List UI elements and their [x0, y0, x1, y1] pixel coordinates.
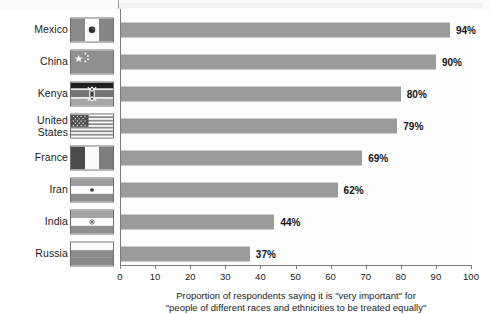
bar-value-label: 44% — [280, 217, 300, 228]
x-axis-tick-label: 60 — [325, 271, 336, 282]
y-axis-line — [120, 9, 121, 266]
bar-row: Mexico 94% — [0, 14, 491, 46]
x-axis-tick — [331, 265, 332, 269]
bar-row: Iran 62% — [0, 174, 491, 206]
x-axis-tick-label: 10 — [150, 271, 161, 282]
country-label: UnitedStates — [0, 115, 68, 138]
bar — [120, 247, 250, 262]
bar-value-label: 94% — [456, 25, 476, 36]
flag-united-states-icon — [70, 114, 114, 139]
bar — [120, 55, 436, 70]
country-label: Kenya — [0, 88, 68, 100]
country-label-line-1: United — [0, 115, 68, 127]
x-axis-tick — [436, 265, 437, 269]
flag-russia-icon — [70, 242, 114, 267]
x-axis-tick-label: 90 — [431, 271, 442, 282]
bar — [120, 23, 450, 38]
country-label-line-1: Iran — [0, 184, 68, 196]
bar-row: France 69% — [0, 142, 491, 174]
bar-row: UnitedStates 79% — [0, 110, 491, 142]
flag-france-icon — [70, 146, 114, 171]
country-label: Mexico — [0, 24, 68, 36]
bar — [120, 215, 274, 230]
country-label-line-1: Mexico — [0, 24, 68, 36]
bar — [120, 183, 338, 198]
x-axis-tick — [155, 265, 156, 269]
bar-value-label: 90% — [442, 57, 462, 68]
bar-row: China 90% — [0, 46, 491, 78]
chart-caption: Proportion of respondents saying it is "… — [120, 290, 472, 314]
bar-value-label: 80% — [407, 89, 427, 100]
country-label: France — [0, 152, 68, 164]
x-axis-tick-label: 50 — [290, 271, 301, 282]
caption-line-1: Proportion of respondents saying it is "… — [120, 290, 472, 302]
bar-row: India 44% — [0, 206, 491, 238]
x-axis-tick-label: 40 — [255, 271, 266, 282]
country-label-line-1: Kenya — [0, 88, 68, 100]
x-axis-tick-label: 80 — [396, 271, 407, 282]
flag-kenya-icon — [70, 82, 114, 107]
x-axis-tick — [120, 265, 121, 269]
cropped-page-fragment — [0, 0, 491, 9]
x-axis-tick — [225, 265, 226, 269]
x-axis-tick — [190, 265, 191, 269]
country-label-line-1: India — [0, 216, 68, 228]
x-axis-tick — [296, 265, 297, 269]
x-axis-tick-label: 20 — [185, 271, 196, 282]
country-label-line-1: Russia — [0, 248, 68, 260]
bar — [120, 119, 397, 134]
flag-mexico-icon — [70, 18, 114, 43]
country-label: India — [0, 216, 68, 228]
x-axis-tick — [260, 265, 261, 269]
bar-rows: Mexico 94%China 90%Kenya 80%UnitedStates — [0, 9, 491, 267]
x-axis-tick-label: 70 — [360, 271, 371, 282]
cropped-text-smear — [118, 3, 483, 8]
bar-value-label: 62% — [344, 185, 364, 196]
country-label-line-1: China — [0, 56, 68, 68]
cropped-rule-mark — [118, 0, 119, 9]
x-axis-tick-label: 0 — [117, 271, 122, 282]
country-label: Russia — [0, 248, 68, 260]
country-label-line-1: France — [0, 152, 68, 164]
flag-india-icon — [70, 210, 114, 235]
x-axis-tick-label: 100 — [463, 271, 479, 282]
country-label: China — [0, 56, 68, 68]
bar-chart: Mexico 94%China 90%Kenya 80%UnitedStates — [0, 9, 491, 310]
bar-value-label: 37% — [256, 249, 276, 260]
bar-value-label: 79% — [403, 121, 423, 132]
x-axis-tick — [401, 265, 402, 269]
bar — [120, 87, 401, 102]
bar — [120, 151, 362, 166]
x-axis-tick — [471, 265, 472, 269]
bar-value-label: 69% — [368, 153, 388, 164]
x-axis: 0102030405060708090100 — [0, 265, 491, 287]
country-label-line-2: States — [0, 126, 68, 138]
caption-line-2: "people of different races and ethniciti… — [120, 302, 472, 314]
flag-china-icon — [70, 50, 114, 75]
x-axis-tick-label: 30 — [220, 271, 231, 282]
bar-row: Kenya 80% — [0, 78, 491, 110]
country-label: Iran — [0, 184, 68, 196]
x-axis-tick — [366, 265, 367, 269]
flag-iran-icon — [70, 178, 114, 203]
